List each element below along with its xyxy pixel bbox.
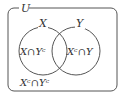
venn-diagram: U X Y X∩Yᶜ Xᶜ∩Y Xᶜ∩Yᶜ [0,0,120,95]
universe-label: U [21,2,31,15]
set-x-label: X [38,17,48,30]
region-x-only-label: X∩Yᶜ [19,46,46,57]
region-y-only-label: Xᶜ∩Y [66,46,94,57]
region-neither-label: Xᶜ∩Yᶜ [19,77,50,88]
